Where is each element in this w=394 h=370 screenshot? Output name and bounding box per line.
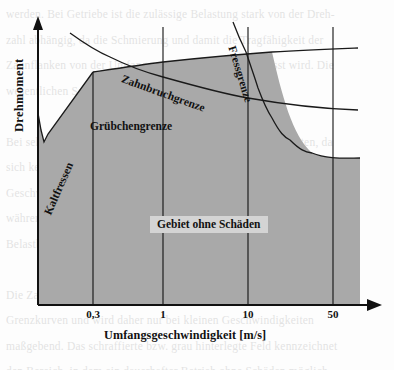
x-axis-arrow-icon xyxy=(367,299,382,311)
chart-canvas xyxy=(0,0,394,370)
y-axis-arrow-icon xyxy=(33,16,43,30)
safe-region-fill xyxy=(38,52,360,305)
figure-page: werden. Bei Getriebe ist die zulässige B… xyxy=(0,0,394,370)
